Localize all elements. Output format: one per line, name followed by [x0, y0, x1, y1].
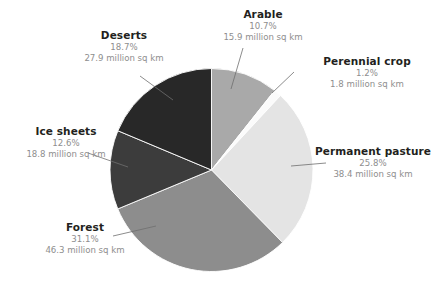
slice-label-perennial-crop: Perennial crop 1.2% 1.8 million sq km [296, 55, 438, 89]
slice-label-deserts-title: Deserts [50, 29, 198, 41]
slice-label-forest-value: 46.3 million sq km [14, 245, 156, 255]
slice-label-arable-percent: 10.7% [201, 21, 325, 31]
slice-label-ice-sheets: Ice sheets 12.6% 18.8 million sq km [6, 125, 126, 159]
leader-line-perennial-crop [272, 72, 294, 93]
slice-label-permanent-pasture-value: 38.4 million sq km [305, 169, 441, 179]
slice-label-forest-percent: 31.1% [14, 234, 156, 244]
slice-label-ice-sheets-percent: 12.6% [6, 138, 126, 148]
slice-label-deserts-percent: 18.7% [50, 42, 198, 52]
slice-label-forest-title: Forest [14, 221, 156, 233]
pie-chart-figure: Arable 10.7% 15.9 million sq km Perennia… [0, 0, 443, 299]
slice-label-permanent-pasture: Permanent pasture 25.8% 38.4 million sq … [305, 145, 441, 179]
slice-label-arable: Arable 10.7% 15.9 million sq km [201, 8, 325, 42]
slice-label-arable-value: 15.9 million sq km [201, 32, 325, 42]
slice-label-arable-title: Arable [201, 8, 325, 20]
slice-label-permanent-pasture-percent: 25.8% [305, 158, 441, 168]
slice-label-forest: Forest 31.1% 46.3 million sq km [14, 221, 156, 255]
slice-label-ice-sheets-value: 18.8 million sq km [6, 149, 126, 159]
slice-label-perennial-crop-percent: 1.2% [296, 68, 438, 78]
slice-label-perennial-crop-title: Perennial crop [296, 55, 438, 67]
slice-label-deserts-value: 27.9 million sq km [50, 53, 198, 63]
slice-label-perennial-crop-value: 1.8 million sq km [296, 79, 438, 89]
slice-label-ice-sheets-title: Ice sheets [6, 125, 126, 137]
slice-label-deserts: Deserts 18.7% 27.9 million sq km [50, 29, 198, 63]
slice-label-permanent-pasture-title: Permanent pasture [305, 145, 441, 157]
